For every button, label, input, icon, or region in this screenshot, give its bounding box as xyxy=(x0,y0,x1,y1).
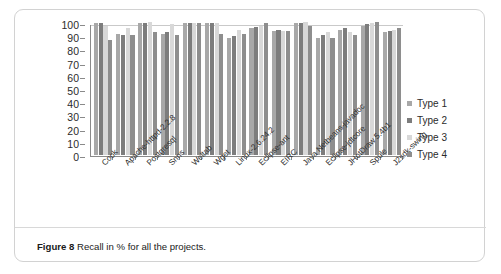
legend-item-label: Type 2 xyxy=(417,115,447,126)
bar xyxy=(388,31,392,155)
y-axis-tick-label: 10 xyxy=(67,140,79,148)
bar xyxy=(138,23,142,155)
bar xyxy=(272,31,276,155)
bar-group xyxy=(292,25,314,155)
bar xyxy=(219,34,223,155)
bar xyxy=(237,30,241,155)
y-axis-tick-mark xyxy=(80,91,85,92)
bar xyxy=(210,23,214,155)
bar xyxy=(242,34,246,155)
legend-item-label: Type 3 xyxy=(417,132,447,143)
bar xyxy=(103,26,107,155)
legend-swatch-icon xyxy=(407,152,412,157)
bar xyxy=(197,23,201,155)
y-axis-tick-mark xyxy=(80,78,85,79)
bar xyxy=(183,23,187,155)
bar xyxy=(383,32,387,155)
bar-group xyxy=(225,25,247,155)
bar-group xyxy=(114,25,136,155)
bar xyxy=(94,23,98,155)
caption-divider xyxy=(15,227,486,228)
x-axis-labels: CookApache-httpd-2.2.8PostgresqlSnnsWelt… xyxy=(91,159,404,225)
bar xyxy=(249,28,253,155)
bar xyxy=(294,23,298,155)
bar-group xyxy=(92,25,114,155)
y-axis-tick-label: 50 xyxy=(67,87,79,95)
bar xyxy=(232,36,236,155)
legend-item[interactable]: Type 3 xyxy=(407,129,482,146)
bar xyxy=(303,22,307,155)
bar xyxy=(205,23,209,155)
bar xyxy=(365,24,369,155)
y-axis-tick-mark xyxy=(80,117,85,118)
bar xyxy=(126,28,130,155)
legend-swatch-icon xyxy=(407,135,412,140)
legend-swatch-icon xyxy=(407,118,412,123)
figure-caption-text: Recall in % for all the projects. xyxy=(74,241,206,252)
y-axis-tick-label: 30 xyxy=(67,113,79,121)
bar xyxy=(308,26,312,155)
bar xyxy=(227,38,231,155)
y-axis-tick-label: 40 xyxy=(67,100,79,108)
y-axis-tick-label: 0 xyxy=(73,153,79,161)
y-axis-tick-label: 90 xyxy=(67,34,79,42)
figure-container: 0102030405060708090100 CookApache-httpd-… xyxy=(14,9,485,262)
bar xyxy=(192,23,196,155)
y-axis-tick-mark xyxy=(80,131,85,132)
bar-group xyxy=(181,25,203,155)
y-axis-tick-mark xyxy=(80,144,85,145)
bar xyxy=(397,28,401,155)
y-axis: 0102030405060708090100 xyxy=(15,25,85,157)
y-axis-tick-mark xyxy=(80,65,85,66)
bar xyxy=(338,30,342,155)
y-axis-tick-mark xyxy=(80,51,85,52)
bar xyxy=(130,35,134,155)
y-axis-tick-label: 80 xyxy=(67,47,79,55)
bar xyxy=(108,40,112,155)
legend-item-label: Type 4 xyxy=(417,149,447,160)
legend-item[interactable]: Type 2 xyxy=(407,112,482,129)
chart-legend: Type 1Type 2Type 3Type 4 xyxy=(407,95,482,163)
bar xyxy=(99,23,103,155)
legend-swatch-icon xyxy=(407,101,412,106)
figure-caption: Figure 8 Recall in % for all the project… xyxy=(37,241,206,252)
bar xyxy=(143,23,147,155)
figure-caption-label: Figure 8 xyxy=(37,241,74,252)
bar xyxy=(343,28,347,155)
y-axis-tick-mark xyxy=(80,38,85,39)
chart-region: 0102030405060708090100 CookApache-httpd-… xyxy=(15,13,486,225)
y-axis-tick-label: 70 xyxy=(67,61,79,69)
bar xyxy=(161,34,165,155)
legend-item-label: Type 1 xyxy=(417,98,447,109)
legend-item[interactable]: Type 4 xyxy=(407,146,482,163)
bar xyxy=(392,30,396,155)
bar xyxy=(316,38,320,155)
bar xyxy=(121,35,125,155)
y-axis-tick-mark xyxy=(80,25,85,26)
bar xyxy=(215,23,219,155)
y-axis-tick-label: 100 xyxy=(61,21,79,29)
y-axis-tick-label: 20 xyxy=(67,127,79,135)
y-axis-tick-label: 60 xyxy=(67,74,79,82)
bar xyxy=(188,23,192,155)
y-axis-tick-mark xyxy=(80,104,85,105)
bar-group xyxy=(203,25,225,155)
bar xyxy=(299,23,303,155)
y-axis-tick-mark xyxy=(80,157,85,158)
bar xyxy=(116,34,120,155)
legend-item[interactable]: Type 1 xyxy=(407,95,482,112)
